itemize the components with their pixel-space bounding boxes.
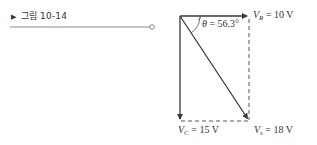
vc-label: VC = 15 V — [178, 124, 219, 137]
vs-subscript: s — [260, 129, 263, 137]
vs-label: Vs = 18 V — [254, 124, 293, 137]
rule-end-circle — [150, 25, 155, 30]
vs-vector — [180, 16, 248, 119]
vs-value: = 18 V — [265, 124, 293, 135]
angle-value: = 56.3° — [209, 18, 239, 29]
theta-symbol: θ — [202, 18, 207, 29]
vc-subscript: C — [184, 129, 189, 137]
vr-label: VR = 10 V — [253, 9, 294, 22]
vr-subscript: R — [259, 14, 263, 22]
vr-value: = 10 V — [266, 9, 294, 20]
angle-label: θ = 56.3° — [202, 18, 239, 29]
vc-value: = 15 V — [191, 124, 219, 135]
